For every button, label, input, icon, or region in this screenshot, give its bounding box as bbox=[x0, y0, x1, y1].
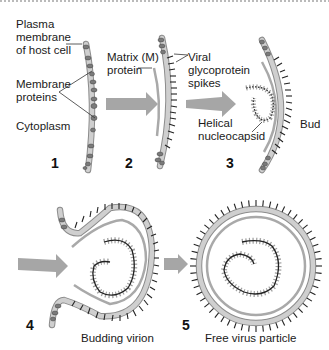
stage-1-membrane bbox=[59, 44, 97, 170]
arrow-1-to-2 bbox=[106, 92, 158, 116]
helical-nucleocapsid bbox=[246, 87, 273, 120]
label-viral-spikes: Viral glycoprotein spikes bbox=[188, 51, 250, 90]
caption-budding-virion: Budding virion bbox=[81, 332, 154, 344]
label-membrane-proteins: Membrane proteins bbox=[16, 78, 71, 104]
label-matrix-protein: Matrix (M) protein bbox=[107, 51, 159, 77]
label-bud: Bud bbox=[300, 118, 320, 131]
arrow-2-to-3 bbox=[186, 91, 236, 117]
step-number-3: 3 bbox=[226, 155, 234, 171]
stage-3-bud bbox=[246, 40, 292, 170]
stage-4-budding-virion bbox=[51, 203, 160, 325]
arrow-4-to-5 bbox=[164, 254, 188, 274]
helical-nucleocapsid-5 bbox=[224, 241, 279, 294]
caption-free-virus: Free virus particle bbox=[205, 332, 296, 344]
stage-5-free-virus bbox=[190, 200, 322, 332]
helical-nucleocapsid-4 bbox=[93, 240, 134, 295]
label-plasma-membrane: Plasma membrane of host cell bbox=[16, 18, 71, 57]
label-helical-nucleocapsid: Helical nucleocapsid bbox=[198, 117, 265, 143]
label-cytoplasm: Cytoplasm bbox=[16, 120, 70, 133]
step-number-2: 2 bbox=[125, 155, 133, 171]
arrow-3-to-4 bbox=[18, 254, 68, 278]
step-number-5: 5 bbox=[182, 317, 190, 333]
step-number-1: 1 bbox=[51, 155, 59, 171]
step-number-4: 4 bbox=[26, 317, 34, 333]
